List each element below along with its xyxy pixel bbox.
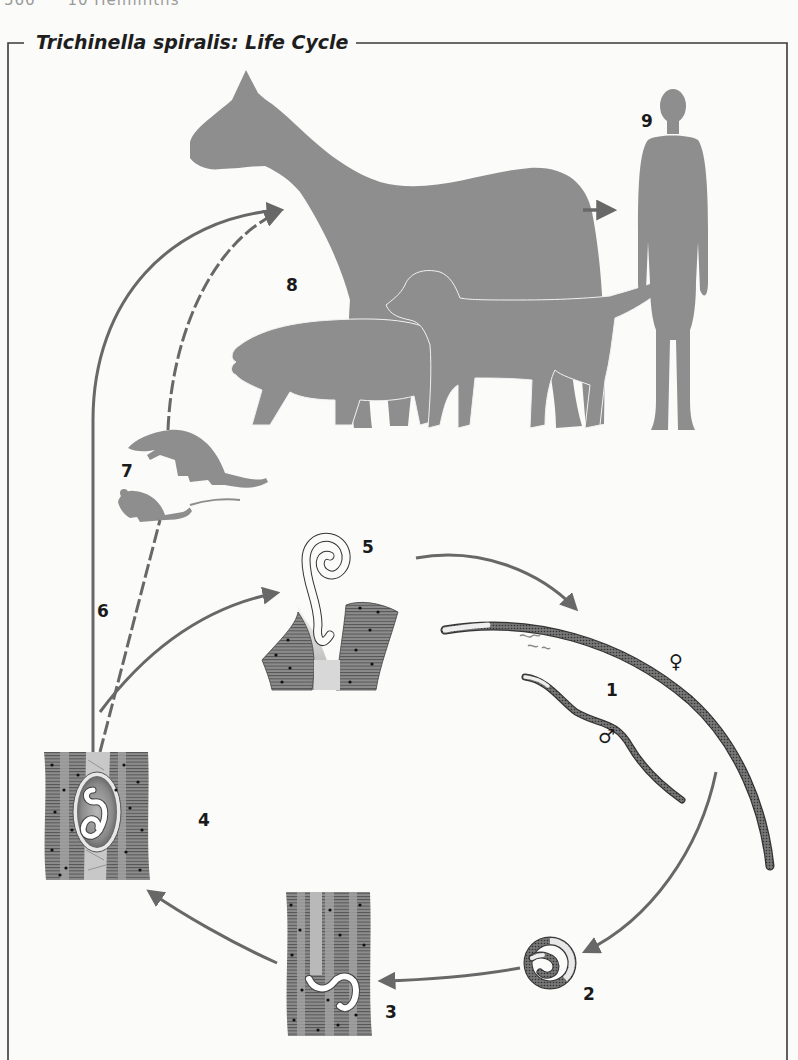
label-stage-1: 1: [606, 680, 618, 700]
label-stage-3: 3: [385, 1002, 397, 1022]
arrow-via-rodents-lower: [100, 520, 160, 752]
encysted-larva-in-muscle: [44, 752, 150, 880]
figure-title: Trichinella spiralis: Life Cycle: [28, 30, 356, 54]
arrow-stage-3-to-4: [150, 892, 277, 963]
arrow-stage-5-to-1: [416, 555, 575, 608]
label-stage-7: 7: [121, 461, 133, 481]
label-stage-4: 4: [198, 810, 210, 830]
female-symbol: ♀: [669, 650, 683, 672]
pig-silhouette: [231, 319, 455, 425]
mouse-silhouette: [118, 489, 192, 522]
arrow-stage-1-to-2: [586, 772, 716, 951]
life-cycle-diagram: 8 9 7 6 4: [0, 0, 798, 1060]
arrow-stage-2-to-3: [382, 968, 520, 981]
male-symbol: ♂: [598, 725, 615, 747]
migrating-larva-in-muscle: [286, 892, 372, 1036]
label-stage-5: 5: [362, 537, 374, 557]
label-stage-9: 9: [641, 111, 653, 131]
label-stage-8: 8: [286, 275, 298, 295]
rat-silhouette: [128, 430, 268, 505]
larva-in-intestinal-mucosa: [262, 537, 398, 690]
newborn-larvae: [520, 635, 550, 649]
label-stage-2: 2: [583, 984, 595, 1004]
newborn-larva: [528, 941, 572, 985]
human-silhouette: [638, 89, 708, 430]
label-stage-6: 6: [97, 601, 109, 621]
